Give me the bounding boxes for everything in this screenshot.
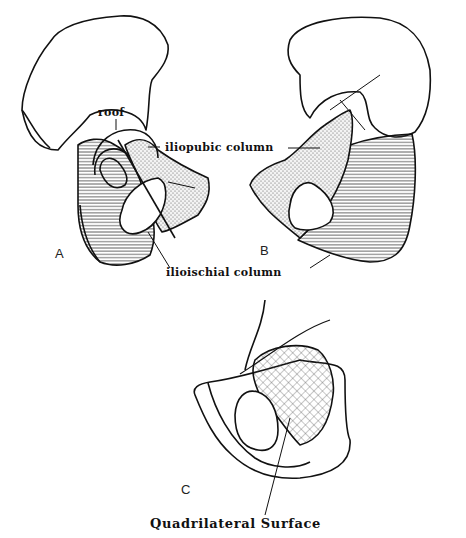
panel-b-hip-bone [250, 17, 430, 268]
label-ilioischial-column: ilioischial column [166, 266, 282, 279]
label-roof: roof [98, 106, 124, 119]
panel-label-b: B [260, 243, 269, 258]
panel-c-hip-bone [194, 300, 350, 515]
panel-label-c: C [181, 482, 190, 497]
caption-quadrilateral-surface: Quadrilateral Surface [150, 516, 321, 531]
panel-label-a: A [55, 246, 64, 261]
label-iliopubic-column: iliopubic column [165, 141, 274, 154]
